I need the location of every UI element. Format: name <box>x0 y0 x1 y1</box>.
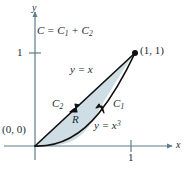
boundary-sum-plus: + <box>71 24 78 36</box>
lower-curve-equals: = <box>102 119 109 131</box>
point-label-1-1: (1, 1) <box>140 45 164 56</box>
lower-curve-rhs: x <box>112 119 117 131</box>
boundary-sum-term2-base: C <box>81 24 88 36</box>
curve-c2-sub: 2 <box>59 102 63 111</box>
y-axis-label: y <box>32 3 36 13</box>
curve-c1-sub: 1 <box>120 102 124 111</box>
curve-c2-label: C2 <box>52 98 63 110</box>
boundary-sum-label: C = C1 + C2 <box>37 25 93 37</box>
boundary-sum-term2-sub: 2 <box>89 29 93 38</box>
x-axis-label: x <box>176 140 180 150</box>
boundary-sum-term1-base: C <box>57 24 64 36</box>
upper-curve-rhs: x <box>88 63 93 75</box>
math-figure: C = C1 + C2 y x 1 1 (1, 1) (0, 0) y = x … <box>0 0 187 174</box>
lower-curve-label: y = x3 <box>94 120 121 131</box>
y-axis-tick-label-1: 1 <box>17 47 23 58</box>
x-axis-tick-label-1: 1 <box>128 152 134 163</box>
upper-curve-label: y = x <box>70 64 93 75</box>
upper-curve-equals: = <box>78 63 85 75</box>
figure-canvas <box>0 0 187 174</box>
boundary-sum-equals: = <box>47 24 54 36</box>
region-label-R: R <box>72 114 79 125</box>
curve-c1-label: C1 <box>113 98 124 110</box>
point-label-0-0: (0, 0) <box>2 124 26 135</box>
point-marker-1-1 <box>132 50 138 56</box>
lower-curve-exponent: 3 <box>117 119 121 128</box>
